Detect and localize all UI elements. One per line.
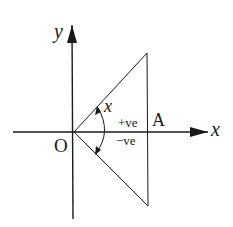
angle-diagram: y x O A x +ve −ve xyxy=(0,0,233,227)
point-a-label: A xyxy=(152,110,165,130)
negative-sign-label: −ve xyxy=(116,133,136,148)
y-axis-arrow-icon xyxy=(67,25,77,43)
angle-label: x xyxy=(103,96,112,116)
positive-sign-label: +ve xyxy=(118,115,138,130)
y-axis xyxy=(72,25,73,219)
origin-label: O xyxy=(54,135,68,156)
y-axis-label: y xyxy=(52,20,63,43)
lower-ray xyxy=(74,132,148,206)
x-axis-label: x xyxy=(210,118,220,140)
angle-arrow-up-icon xyxy=(95,106,101,115)
x-axis-arrow-icon xyxy=(190,127,208,137)
vertical-side xyxy=(147,53,148,206)
